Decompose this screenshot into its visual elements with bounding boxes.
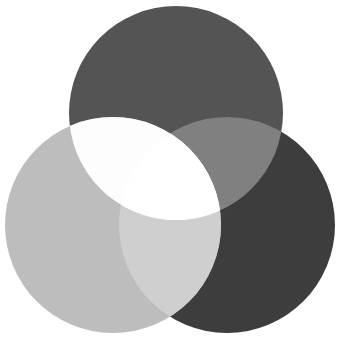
venn-diagram: [0, 0, 338, 338]
venn-svg: [0, 0, 338, 338]
